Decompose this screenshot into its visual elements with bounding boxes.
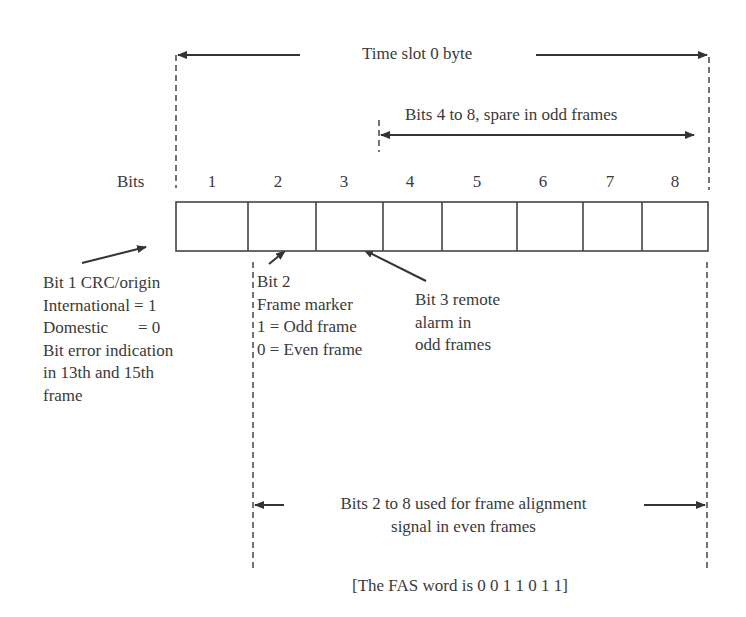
bit-number-7: 7 xyxy=(600,172,620,192)
fas-span-note: Bits 2 to 8 used for frame alignment sig… xyxy=(286,493,641,538)
bit1-note-line: frame xyxy=(43,385,173,408)
bit-number-2: 2 xyxy=(268,172,288,192)
fas-span-line: signal in even frames xyxy=(286,516,641,539)
bit1-callout-arrow xyxy=(82,247,146,263)
bit2-note: Bit 2 Frame marker 1 = Odd frame 0 = Eve… xyxy=(257,271,362,361)
bit2-note-line: Bit 2 xyxy=(257,271,362,294)
bit1-note-line: Bit error indication xyxy=(43,340,173,363)
bit2-note-line: 0 = Even frame xyxy=(257,339,362,362)
bit3-note: Bit 3 remote alarm in odd frames xyxy=(415,289,500,357)
bit1-note-line: Bit 1 CRC/origin xyxy=(43,272,173,295)
bit3-note-line: Bit 3 remote xyxy=(415,289,500,312)
bit-number-3: 3 xyxy=(334,172,354,192)
byte-box xyxy=(176,202,708,251)
bit3-callout-arrow xyxy=(364,250,426,281)
bit3-note-line: alarm in xyxy=(415,312,500,335)
fas-word-label: [The FAS word is 0 0 1 1 0 1 1] xyxy=(352,576,568,596)
bit1-note-line: Domestic = 0 xyxy=(43,317,173,340)
time-slot-0-diagram: Time slot 0 byte Bits 4 to 8, spare in o… xyxy=(0,0,746,617)
bit3-note-line: odd frames xyxy=(415,334,500,357)
bit2-callout-arrow xyxy=(269,251,285,264)
bit1-note-line: in 13th and 15th xyxy=(43,362,173,385)
fas-span-line: Bits 2 to 8 used for frame alignment xyxy=(286,493,641,516)
bits-label: Bits xyxy=(117,172,144,192)
bit1-note: Bit 1 CRC/origin International = 1 Domes… xyxy=(43,272,173,407)
spare-bits-label: Bits 4 to 8, spare in odd frames xyxy=(405,105,617,125)
bit2-note-line: 1 = Odd frame xyxy=(257,316,362,339)
bit1-note-line: International = 1 xyxy=(43,295,173,318)
bit-number-8: 8 xyxy=(665,172,685,192)
bit-number-4: 4 xyxy=(400,172,420,192)
time-slot-label: Time slot 0 byte xyxy=(362,44,472,64)
bit-number-5: 5 xyxy=(467,172,487,192)
bit-number-1: 1 xyxy=(202,172,222,192)
bit-number-6: 6 xyxy=(533,172,553,192)
bit2-note-line: Frame marker xyxy=(257,294,362,317)
